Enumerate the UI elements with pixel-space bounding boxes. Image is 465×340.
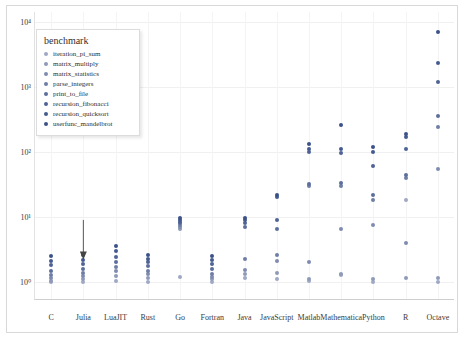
data-point — [371, 150, 375, 154]
data-point — [210, 267, 214, 271]
x-tick-label: Matlab — [298, 313, 321, 322]
data-point — [49, 269, 53, 273]
data-point — [178, 216, 182, 220]
x-gridline — [438, 12, 439, 299]
data-point — [371, 198, 375, 202]
data-point — [114, 255, 118, 259]
x-tick-label: Octave — [427, 313, 450, 322]
data-point — [49, 263, 53, 267]
data-point — [371, 164, 375, 168]
data-point — [371, 145, 375, 149]
data-point — [146, 260, 150, 264]
x-gridline — [341, 12, 342, 299]
data-point — [436, 125, 440, 129]
y-tick-label: 10³ — [21, 82, 31, 91]
legend-item-matrix-statistics[interactable]: matrix_statistics — [44, 69, 133, 79]
legend: benchmark iteration_pi_summatrix_multipl… — [36, 29, 140, 136]
data-point — [339, 151, 343, 155]
x-gridline — [180, 12, 181, 299]
data-point — [436, 80, 440, 84]
legend-swatch-icon — [44, 112, 48, 116]
legend-title: benchmark — [44, 35, 133, 46]
data-point — [404, 276, 408, 280]
data-point — [339, 227, 343, 231]
data-point — [436, 30, 440, 34]
x-tick-label: LuaJIT — [104, 313, 127, 322]
x-tick-label: Fortran — [200, 313, 224, 322]
data-point — [114, 279, 118, 283]
data-point — [275, 227, 279, 231]
data-point — [210, 254, 214, 258]
data-point — [81, 271, 85, 275]
data-point — [404, 132, 408, 136]
x-gridline — [406, 12, 407, 299]
data-point — [146, 257, 150, 261]
legend-swatch-icon — [44, 102, 48, 106]
legend-item-matrix-multiply[interactable]: matrix_multiply — [44, 59, 133, 69]
x-tick-label: Go — [175, 313, 185, 322]
data-point — [49, 276, 53, 280]
y-tick-label: 10² — [21, 147, 31, 156]
data-point — [275, 277, 279, 281]
data-point — [114, 265, 118, 269]
legend-item-userfunc-mandelbrot[interactable]: userfunc_mandelbrot — [44, 119, 133, 129]
x-tick-label: Julia — [76, 313, 91, 322]
legend-item-recursion-quicksort[interactable]: recursion_quicksort — [44, 109, 133, 119]
x-tick-label: Mathematica — [320, 313, 362, 322]
data-point — [81, 277, 85, 281]
data-point — [339, 147, 343, 151]
data-point — [307, 277, 311, 281]
data-point — [404, 147, 408, 151]
y-tick-label: 10¹ — [21, 212, 31, 221]
legend-item-label: matrix_multiply — [53, 60, 99, 68]
x-tick-label: R — [403, 313, 408, 322]
legend-item-label: recursion_fibonacci — [53, 100, 109, 108]
data-point — [210, 272, 214, 276]
data-point — [81, 253, 85, 257]
data-point — [49, 273, 53, 277]
data-point — [81, 262, 85, 266]
legend-item-recursion-fibonacci[interactable]: recursion_fibonacci — [44, 99, 133, 109]
data-point — [49, 259, 53, 263]
data-point — [114, 260, 118, 264]
data-point — [146, 269, 150, 273]
legend-swatch-icon — [44, 62, 48, 66]
legend-items: iteration_pi_summatrix_multiplymatrix_st… — [44, 49, 133, 129]
legend-swatch-icon — [44, 72, 48, 76]
data-point — [404, 241, 408, 245]
data-point — [275, 218, 279, 222]
data-point — [243, 272, 247, 276]
data-point — [49, 254, 53, 258]
data-point — [146, 280, 150, 284]
data-point — [243, 268, 247, 272]
legend-item-parse-integers[interactable]: parse_integers — [44, 79, 133, 89]
legend-swatch-icon — [44, 92, 48, 96]
legend-item-label: userfunc_mandelbrot — [53, 120, 112, 128]
x-gridline — [373, 12, 374, 299]
data-point — [307, 142, 311, 146]
data-point — [210, 262, 214, 266]
legend-item-iteration-pi-sum[interactable]: iteration_pi_sum — [44, 49, 133, 59]
data-point — [243, 225, 247, 229]
data-point — [371, 223, 375, 227]
y-tick-label: 10⁴ — [20, 17, 31, 26]
data-point — [81, 267, 85, 271]
legend-swatch-icon — [44, 122, 48, 126]
data-point — [114, 269, 118, 273]
data-point — [243, 257, 247, 261]
data-point — [275, 193, 279, 197]
data-point — [371, 193, 375, 197]
data-point — [404, 198, 408, 202]
x-tick-label: Java — [237, 313, 251, 322]
x-tick-label: C — [48, 313, 53, 322]
data-point — [81, 258, 85, 262]
data-point — [436, 276, 440, 280]
data-point — [436, 61, 440, 65]
data-point — [243, 276, 247, 280]
x-tick-label: Python — [362, 313, 385, 322]
legend-item-print-to-file[interactable]: print_to_file — [44, 89, 133, 99]
x-tick-label: Rust — [140, 313, 155, 322]
data-point — [436, 280, 440, 284]
x-tick-label: JavaScript — [260, 313, 293, 322]
data-point — [146, 253, 150, 257]
